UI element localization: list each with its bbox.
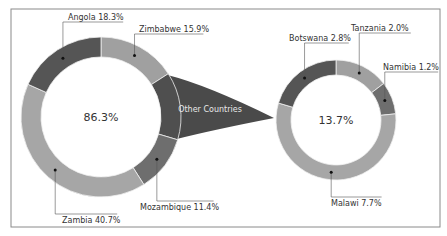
label-angola: Angola 18.3% — [68, 13, 124, 22]
pie-of-pie-chart: Angola 18.3%Zimbabwe 15.9%Mozambique 11.… — [0, 0, 447, 236]
leader-dot-namibia — [383, 99, 386, 102]
label-malawi: Malawi 7.7% — [331, 199, 382, 208]
main-center-label: 86.3% — [84, 111, 119, 124]
label-zambia: Zambia 40.7% — [62, 216, 121, 225]
leader-dot-mozambique — [155, 158, 158, 161]
label-tanzania: Tanzania 2.0% — [350, 24, 409, 33]
secondary-center-label: 13.7% — [319, 114, 354, 127]
leader-dot-zimbabwe — [133, 54, 136, 57]
leader-dot-tanzania — [358, 71, 361, 74]
leader-dot-zambia — [54, 168, 57, 171]
leader-dot-angola — [61, 57, 64, 60]
label-namibia: Namibia 1.2% — [383, 63, 439, 72]
label-mozambique: Mozambique 11.4% — [140, 203, 219, 212]
leader-dot-botswana — [303, 76, 306, 79]
label-botswana: Botswana 2.8% — [289, 34, 351, 43]
leader-dot-malawi — [330, 171, 333, 174]
label-zimbabwe: Zimbabwe 15.9% — [139, 25, 209, 34]
connector-label: Other Countries — [178, 105, 242, 114]
